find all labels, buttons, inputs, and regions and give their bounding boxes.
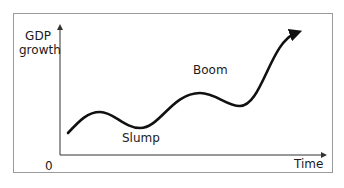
y-axis-label: GDP growth: [19, 29, 57, 57]
boom-annotation: Boom: [193, 63, 228, 77]
gdp-growth-curve: [68, 33, 296, 133]
y-axis-label-line1: GDP: [19, 29, 57, 43]
slump-annotation: Slump: [122, 131, 160, 145]
x-axis-label: Time: [294, 157, 323, 171]
origin-label: 0: [45, 159, 53, 173]
y-axis-label-line2: growth: [19, 43, 57, 57]
